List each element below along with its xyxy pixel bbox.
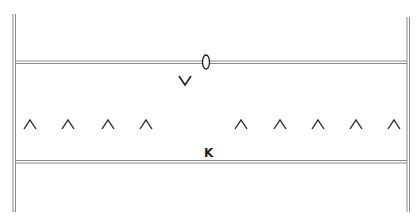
caret-icon (350, 120, 362, 129)
right-wall (407, 17, 410, 212)
caret-icon (140, 120, 152, 129)
bottom-rail (15, 161, 407, 164)
caret-group-right (235, 120, 400, 129)
caret-icon (62, 120, 74, 129)
caret-group-left (24, 120, 152, 129)
top-rail (15, 61, 407, 64)
caret-icon (102, 120, 114, 129)
left-wall (13, 14, 16, 212)
caret-icon (235, 120, 247, 129)
caret-icon (312, 120, 324, 129)
diagram-lines (0, 0, 420, 219)
k-label: K (204, 147, 213, 159)
diagram-canvas: K (0, 0, 420, 219)
caret-icon (24, 120, 36, 129)
caret-icon (388, 120, 400, 129)
v-mark-icon (179, 76, 191, 85)
caret-icon (274, 120, 286, 129)
oval-marker-icon (203, 55, 210, 69)
